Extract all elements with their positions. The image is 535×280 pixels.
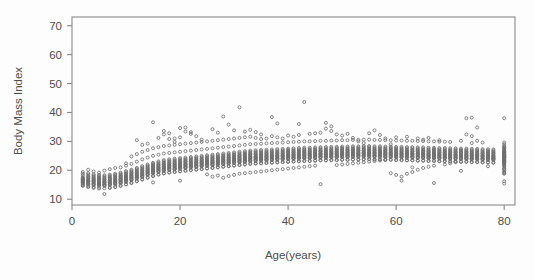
- y-axis-title: Body Mass Index: [12, 67, 24, 155]
- scatter-plot-svg: 020406080 10203040506070 Age(years) Body…: [0, 0, 535, 280]
- x-tick-label: 20: [174, 215, 187, 227]
- y-tick-label: 40: [49, 106, 62, 118]
- y-tick-label: 10: [49, 193, 62, 205]
- y-tick-label: 30: [49, 135, 62, 147]
- y-tick-label: 70: [49, 20, 62, 32]
- y-tick-label: 20: [49, 164, 62, 176]
- x-axis-title: Age(years): [265, 249, 321, 261]
- x-tick-label: 60: [390, 215, 403, 227]
- y-tick-label: 60: [49, 49, 62, 61]
- y-tick-label: 50: [49, 78, 62, 90]
- x-tick-label: 40: [282, 215, 295, 227]
- x-tick-label: 80: [498, 215, 511, 227]
- x-tick-label: 0: [69, 215, 75, 227]
- bmi-age-scatter-figure: 020406080 10203040506070 Age(years) Body…: [0, 0, 535, 280]
